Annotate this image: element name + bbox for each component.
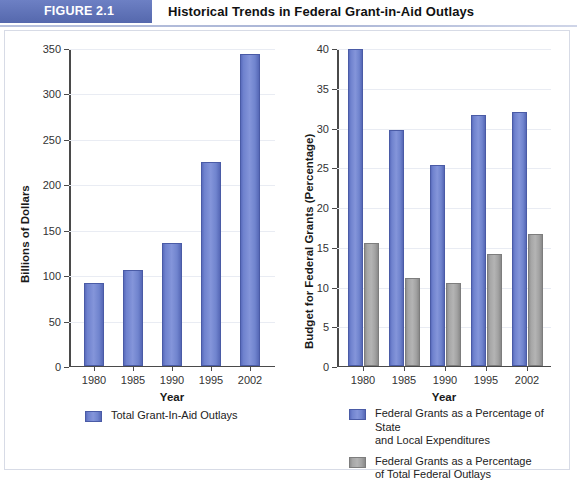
legend-label: Federal Grants as a Percentage of State … [375, 407, 569, 448]
x-tick-mark [94, 367, 95, 371]
x-tick-label: 1985 [392, 374, 416, 386]
bar [487, 254, 502, 366]
bar [512, 112, 527, 366]
bar [364, 243, 379, 366]
left-x-axis-title: Year [160, 391, 184, 403]
x-tick-mark [133, 367, 134, 371]
legend-label-line2: of Total Federal Outlays [375, 468, 532, 482]
legend-swatch-blue-icon [349, 409, 366, 420]
y-tick-label: 15 [317, 242, 329, 254]
left-chart: 050100150200250300350 198019851990199520… [5, 31, 293, 471]
bar [201, 162, 221, 365]
bar [348, 49, 363, 366]
y-tick-mark [332, 367, 337, 368]
legend-swatch-blue-icon [85, 411, 102, 422]
bar [240, 54, 260, 366]
right-y-axis-title: Budget for Federal Grants (Percentage) [303, 134, 315, 349]
left-plot-area: 050100150200250300350 198019851990199520… [69, 49, 275, 367]
x-tick-mark [527, 367, 528, 371]
y-tick-label: 100 [43, 270, 61, 282]
right-chart: 0510152025303540 19801985199019952002 Bu… [293, 31, 571, 471]
legend-item: Federal Grants as a Percentage of Total … [349, 455, 569, 482]
y-tick-label: 30 [317, 123, 329, 135]
y-tick-label: 35 [317, 83, 329, 95]
y-tick-label: 40 [317, 43, 329, 55]
legend-item: Federal Grants as a Percentage of State … [349, 407, 569, 448]
y-tick-label: 10 [317, 282, 329, 294]
legend-label: Total Grant-In-Aid Outlays [111, 409, 238, 423]
bar [471, 115, 486, 365]
y-tick-label: 0 [323, 361, 329, 373]
bar [405, 278, 420, 365]
bar [123, 270, 143, 366]
figure-number-badge: FIGURE 2.1 [0, 0, 152, 23]
y-tick-label: 200 [43, 179, 61, 191]
x-tick-label: 1985 [121, 374, 145, 386]
y-tick-label: 20 [317, 202, 329, 214]
bar [528, 234, 543, 365]
x-tick-label: 1980 [82, 374, 106, 386]
y-tick-label: 25 [317, 162, 329, 174]
right-bars [337, 49, 551, 366]
y-tick-label: 5 [323, 321, 329, 333]
x-tick-mark [363, 367, 364, 371]
y-tick-mark [64, 367, 69, 368]
legend-label-line1: Federal Grants as a Percentage of State [375, 407, 544, 433]
right-plot-area: 0510152025303540 19801985199019952002 [337, 49, 551, 367]
y-tick-label: 300 [43, 88, 61, 100]
bar [389, 130, 404, 366]
x-tick-label: 1980 [351, 374, 375, 386]
x-tick-label: 1990 [433, 374, 457, 386]
x-tick-mark [486, 367, 487, 371]
y-tick-label: 150 [43, 225, 61, 237]
y-tick-label: 350 [43, 43, 61, 55]
bar [430, 165, 445, 365]
legend-label-line2: and Local Expenditures [375, 434, 569, 448]
bar [84, 283, 104, 365]
left-y-axis-title: Billions of Dollars [19, 185, 31, 283]
legend-label-line1: Federal Grants as a Percentage [375, 455, 532, 467]
y-tick-label: 250 [43, 134, 61, 146]
legend-swatch-gray-icon [349, 457, 366, 468]
x-tick-label: 1990 [160, 374, 184, 386]
x-tick-label: 1995 [474, 374, 498, 386]
x-tick-label: 1995 [199, 374, 223, 386]
right-x-axis [337, 366, 551, 368]
figure-title: Historical Trends in Federal Grant-in-Ai… [168, 4, 474, 19]
x-tick-mark [404, 367, 405, 371]
x-tick-mark [445, 367, 446, 371]
legend-item: Total Grant-In-Aid Outlays [85, 409, 238, 423]
figure-header: FIGURE 2.1 Historical Trends in Federal … [0, 0, 577, 24]
legend-label: Federal Grants as a Percentage of Total … [375, 455, 532, 482]
x-tick-mark [211, 367, 212, 371]
x-tick-mark [250, 367, 251, 371]
y-tick-label: 50 [49, 316, 61, 328]
x-tick-label: 2002 [238, 374, 262, 386]
chart-panel: 050100150200250300350 198019851990199520… [4, 30, 570, 470]
y-tick-label: 0 [55, 361, 61, 373]
right-legend: Federal Grants as a Percentage of State … [349, 407, 569, 484]
header-divider [0, 25, 577, 27]
left-legend: Total Grant-In-Aid Outlays [85, 409, 238, 430]
bar [162, 243, 182, 365]
x-tick-mark [172, 367, 173, 371]
bar [446, 283, 461, 365]
figure-number-label: FIGURE 2.1 [44, 4, 114, 18]
right-x-axis-title: Year [432, 391, 456, 403]
x-tick-label: 2002 [515, 374, 539, 386]
left-bars [69, 49, 275, 366]
